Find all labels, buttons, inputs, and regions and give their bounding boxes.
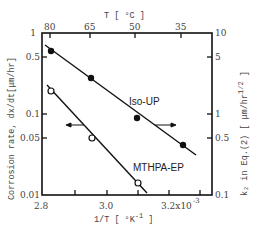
top-tick-35: 35 [175,22,187,32]
y-tick-1: 1 [30,28,36,38]
top-tick-50: 50 [129,22,141,32]
left-axis-arrow [66,123,84,127]
arrhenius-chart: 80 65 50 35 T [ °C ] 1 0.5 0.1 0.05 0.01… [0,0,255,234]
y-tick-0.1: 0.1 [26,109,40,119]
x-tick-exponent: -3 [193,197,200,205]
y-tick-0.01: 0.01 [20,190,40,200]
x-tick-3.2: 3.2x10 [161,201,192,211]
right-axis-arrow [155,123,176,127]
top-tick-65: 65 [84,22,96,32]
y-axis-label: Corrosion rate, dx/dt[μm/hr] [7,57,17,200]
y2-tick-1: 1 [215,109,221,119]
iso-up-fit-line [45,45,196,155]
x-axis-label: 1/T [ °K-1 ] [94,212,153,225]
iso-up-label: Iso-UP [129,96,160,107]
y2-tick-0.1: 0.1 [215,190,229,200]
y2-tick-10: 10 [215,28,227,38]
y2-tick-5: 5 [215,52,221,62]
x-tick-3.0: 3.0 [99,201,114,211]
x-tick-2.8: 2.8 [34,201,49,211]
top-axis-title: T [ °C ] [104,11,145,21]
top-tick-80: 80 [44,22,56,32]
y2-axis-label: k₂ in Eq.(2) [ μm/hr1/2 ] [237,71,250,196]
y-tick-0.05: 0.05 [20,133,40,143]
y2-tick-0.5: 0.5 [215,133,230,143]
y-tick-0.5: 0.5 [26,52,41,62]
mthpa-ep-label: MTHPA-EP [133,162,184,173]
